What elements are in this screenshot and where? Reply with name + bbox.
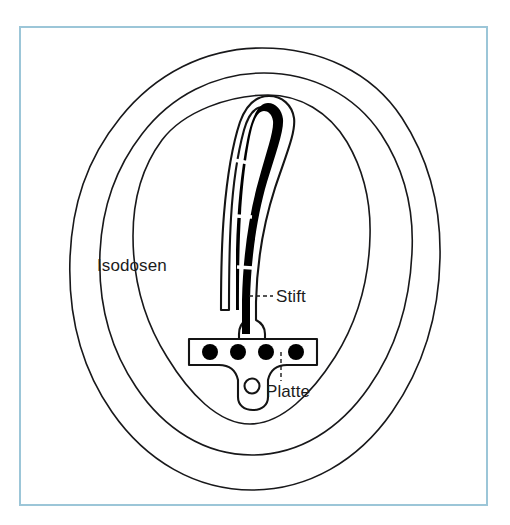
platte-screw-hole-2 <box>230 344 246 360</box>
isodose-diagram: Isodosen Stift Platte <box>0 0 510 525</box>
label-isodosen: Isodosen <box>97 256 167 275</box>
platte-screw-hole-4 <box>288 344 304 360</box>
stift-segment-gap-3 <box>237 267 253 268</box>
platte-screw-hole-1 <box>202 344 218 360</box>
stift-segment-gap-2 <box>236 216 252 217</box>
figure-root: Isodosen Stift Platte <box>0 0 510 525</box>
label-platte: Platte <box>266 382 310 401</box>
label-stift: Stift <box>276 287 306 306</box>
platte-screw-hole-3 <box>258 344 274 360</box>
platte-open-hole <box>245 379 260 394</box>
